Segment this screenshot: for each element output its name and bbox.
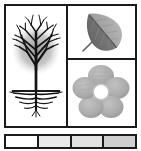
scale-cell-4[interactable] bbox=[104, 136, 135, 147]
grayscale-strip bbox=[4, 134, 137, 149]
panel-flower[interactable] bbox=[68, 60, 135, 126]
flower-icon bbox=[68, 60, 135, 126]
right-column bbox=[68, 6, 135, 126]
leaf-icon bbox=[68, 6, 135, 58]
panel-grid bbox=[4, 4, 137, 128]
tree-with-roots-icon bbox=[6, 6, 66, 126]
scale-cell-2[interactable] bbox=[39, 136, 72, 147]
scale-cell-3[interactable] bbox=[72, 136, 105, 147]
scale-cell-1[interactable] bbox=[6, 136, 39, 147]
figure-root bbox=[0, 0, 141, 151]
panel-leaf[interactable] bbox=[68, 6, 135, 60]
panel-tree[interactable] bbox=[6, 6, 68, 126]
